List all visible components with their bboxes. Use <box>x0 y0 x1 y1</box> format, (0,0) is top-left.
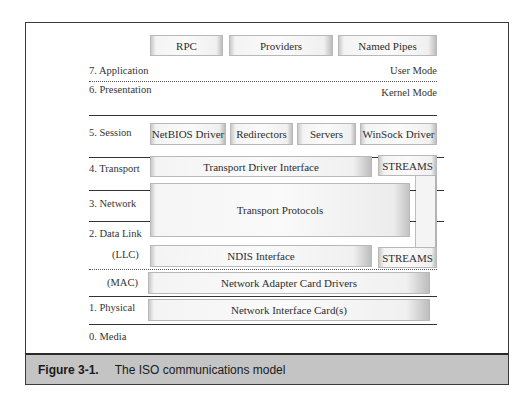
servers-label: Servers <box>310 128 343 140</box>
figure-title: The ISO communications model <box>115 363 286 377</box>
layer-divider-line <box>410 190 416 191</box>
layer-divider-line <box>89 324 437 325</box>
figure-caption: Figure 3-1. The ISO communications model <box>25 353 509 385</box>
layer-5-session-label: 5. Session <box>89 127 132 138</box>
servers-box: Servers <box>297 123 356 145</box>
layer-1-physical-label: 1. Physical <box>89 302 135 313</box>
streams-connector-bar <box>415 175 437 249</box>
layer-divider-line <box>89 115 437 116</box>
streams-bottom-box: STREAMS <box>378 247 437 268</box>
redirectors-label: Redirectors <box>236 128 287 140</box>
rpc-box: RPC <box>150 35 223 56</box>
named-pipes-box: Named Pipes <box>338 35 437 56</box>
ndis-interface-label: NDIS Interface <box>227 250 295 262</box>
transport-driver-interface-box: Transport Driver Interface <box>150 156 372 177</box>
kernel-mode-label: Kernel Mode <box>381 87 437 98</box>
layer-6-presentation-label: 6. Presentation <box>89 84 151 95</box>
layer-divider-line <box>89 296 437 297</box>
netbios-driver-label: NetBIOS Driver <box>152 128 224 140</box>
streams-top-box: STREAMS <box>378 155 437 176</box>
layer-4-transport-label: 4. Transport <box>89 163 140 174</box>
streams-bottom-label: STREAMS <box>382 252 433 264</box>
nic-label: Network Interface Card(s) <box>231 304 347 316</box>
user-kernel-boundary-dotted-line <box>89 81 437 82</box>
network-interface-cards-box: Network Interface Card(s) <box>148 299 430 321</box>
layer-7-application-label: 7. Application <box>89 65 149 76</box>
llc-sublayer-label: (LLC) <box>112 249 139 260</box>
tdi-label: Transport Driver Interface <box>203 161 319 173</box>
user-mode-label: User Mode <box>390 65 437 76</box>
layer-divider-line <box>89 221 150 222</box>
winsock-driver-label: WinSock Driver <box>363 128 435 140</box>
winsock-driver-box: WinSock Driver <box>360 123 437 145</box>
named-pipes-label: Named Pipes <box>358 40 416 52</box>
netbios-driver-box: NetBIOS Driver <box>150 123 226 145</box>
rpc-label: RPC <box>176 40 197 52</box>
network-adapter-card-drivers-box: Network Adapter Card Drivers <box>148 272 430 294</box>
transport-protocols-label: Transport Protocols <box>237 204 324 216</box>
layer-0-media-label: 0. Media <box>89 331 126 342</box>
streams-top-label: STREAMS <box>382 160 433 172</box>
providers-label: Providers <box>260 40 302 52</box>
redirectors-box: Redirectors <box>230 123 293 145</box>
layer-divider-line <box>437 221 444 222</box>
layer-divider-line <box>437 157 444 158</box>
layer-3-network-label: 3. Network <box>89 198 136 209</box>
layer-divider-line <box>89 157 150 158</box>
providers-box: Providers <box>229 35 333 56</box>
mac-sublayer-label: (MAC) <box>107 277 138 288</box>
transport-protocols-box: Transport Protocols <box>150 183 410 237</box>
layer-divider-line <box>437 190 444 191</box>
llc-mac-boundary-dotted-line <box>89 269 437 270</box>
adapter-drivers-label: Network Adapter Card Drivers <box>221 277 357 289</box>
ndis-interface-box: NDIS Interface <box>150 245 372 267</box>
layer-divider-line <box>410 221 416 222</box>
figure-number: Figure 3-1. <box>38 363 99 377</box>
layer-2-data-link-label: 2. Data Link <box>89 228 142 239</box>
layer-divider-line <box>89 190 150 191</box>
